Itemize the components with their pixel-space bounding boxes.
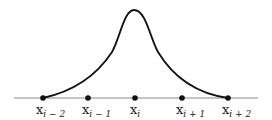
node-label: xi — [130, 103, 140, 119]
node-subscript: i + 1 — [183, 109, 205, 119]
node-subscript: i + 2 — [229, 109, 251, 119]
node-label: xi − 1 — [82, 103, 111, 119]
node-dot — [40, 95, 46, 101]
node-subscript: i − 2 — [43, 109, 65, 119]
node-label: xi + 1 — [176, 103, 205, 119]
node-dot — [85, 95, 91, 101]
node-dot — [225, 95, 231, 101]
node-subscript: i — [137, 109, 140, 119]
node-subscript: i − 1 — [89, 109, 111, 119]
node-dot — [179, 95, 185, 101]
node-label: xi + 2 — [222, 103, 251, 119]
node-label: xi − 2 — [36, 103, 65, 119]
bell-curve — [43, 10, 228, 98]
node-dot — [132, 95, 138, 101]
